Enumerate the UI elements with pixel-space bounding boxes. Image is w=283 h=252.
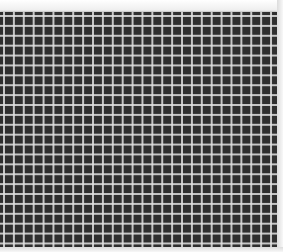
- mesh-grid: Close-up of a dark square mesh grid with…: [0, 12, 277, 247]
- bottom-background: [0, 247, 283, 252]
- image-description: Close-up of a dark square mesh grid with…: [0, 12, 1, 13]
- right-background: [277, 0, 283, 252]
